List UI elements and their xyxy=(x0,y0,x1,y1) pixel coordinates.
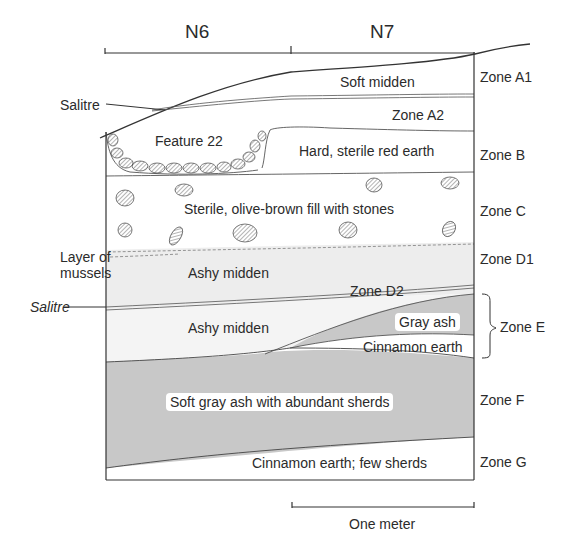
mussels-label-line2: mussels xyxy=(60,266,111,280)
mussels-label-line1: Layer of xyxy=(60,250,111,264)
salitre-mid-label: Salitre xyxy=(30,300,70,314)
layer-e-cinnamon-label: Cinnamon earth xyxy=(363,340,463,354)
column-n6: N6 xyxy=(185,22,209,41)
layer-d2-label: Ashy midden xyxy=(188,321,269,335)
zone-e: Zone E xyxy=(500,320,545,334)
salitre-top-label: Salitre xyxy=(60,98,100,112)
layer-f-label: Soft gray ash with abundant sherds xyxy=(166,393,393,411)
layer-g-label: Cinnamon earth; few sherds xyxy=(252,456,427,470)
layer-a2-label: Zone A2 xyxy=(392,108,444,122)
layer-b-label: Hard, sterile red earth xyxy=(299,144,434,158)
zone-c: Zone C xyxy=(480,204,526,218)
zone-e-brace xyxy=(482,294,496,358)
layer-a1-label: Soft midden xyxy=(340,75,415,89)
zone-g: Zone G xyxy=(480,455,527,469)
zone-f: Zone F xyxy=(480,393,524,407)
scale-bar xyxy=(292,502,474,508)
feature-22-label: Feature 22 xyxy=(155,134,223,148)
layer-d2-zone-label: Zone D2 xyxy=(350,284,404,298)
grid-header-bar xyxy=(105,46,475,54)
column-n7: N7 xyxy=(370,22,394,41)
zone-d1: Zone D1 xyxy=(480,252,534,266)
layer-e-grayash-label: Gray ash xyxy=(395,313,460,331)
scale-label: One meter xyxy=(349,517,415,531)
layer-d1-label: Ashy midden xyxy=(188,266,269,280)
layer-c-label: Sterile, olive-brown fill with stones xyxy=(184,202,394,216)
ground-surface-line xyxy=(100,44,530,138)
zone-a1: Zone A1 xyxy=(480,70,532,84)
zone-b: Zone B xyxy=(480,148,525,162)
